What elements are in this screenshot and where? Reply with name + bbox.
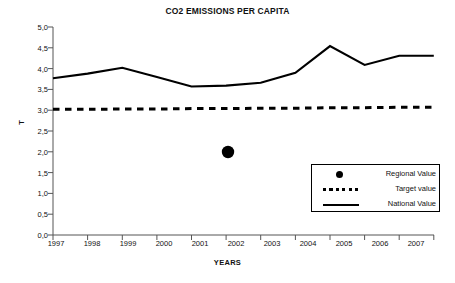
filled-circle-marker-icon bbox=[312, 166, 370, 182]
x-axis-ticks bbox=[53, 235, 434, 240]
dotted-line-swatch-icon bbox=[312, 181, 370, 197]
y-axis-ticks bbox=[48, 27, 53, 235]
legend-item-regional-value: Regional Value bbox=[312, 166, 441, 182]
chart-legend: Regional Value Target value National Val… bbox=[311, 164, 440, 212]
legend-label-national-value: National Value bbox=[370, 196, 441, 212]
plot-area bbox=[0, 0, 455, 283]
legend-item-national-value: National Value bbox=[312, 196, 441, 212]
co2-emissions-chart: CO2 EMISSIONS PER CAPITA T YEARS 5,0 4,5… bbox=[0, 0, 455, 283]
series-regional-value-point bbox=[222, 146, 234, 158]
legend-item-target-value: Target value bbox=[312, 181, 441, 197]
legend-label-regional-value: Regional Value bbox=[370, 166, 441, 182]
legend-label-target-value: Target value bbox=[370, 181, 441, 197]
series-target-value bbox=[53, 107, 434, 109]
solid-line-swatch-icon bbox=[312, 196, 370, 212]
series-national-value bbox=[53, 46, 434, 86]
